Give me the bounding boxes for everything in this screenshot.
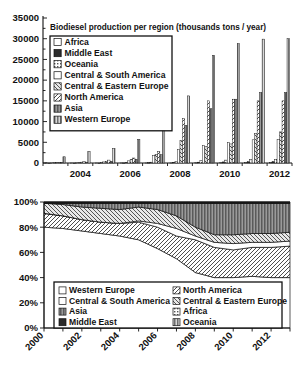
legend-label: North America	[183, 285, 242, 295]
legend-swatch	[54, 105, 61, 112]
bar	[262, 39, 264, 163]
bar	[83, 162, 85, 163]
bar	[260, 93, 262, 163]
bar	[110, 161, 112, 163]
area-x-tick-label: 2008	[174, 330, 197, 353]
bar	[175, 161, 177, 163]
bar	[250, 160, 252, 163]
bar	[158, 151, 160, 163]
legend-swatch	[59, 287, 66, 294]
area-x-tick-label: 2004	[98, 329, 121, 352]
bar	[138, 139, 140, 163]
legend-swatch	[54, 94, 61, 101]
bar	[185, 125, 187, 163]
bar	[160, 155, 162, 163]
bar	[282, 101, 284, 163]
legend-swatch	[54, 61, 61, 68]
legend-label: Middle East	[69, 317, 117, 327]
bar	[177, 149, 179, 163]
legend-swatch	[173, 308, 180, 315]
bar	[103, 162, 105, 163]
bar	[135, 159, 137, 163]
legend-swatch	[59, 308, 66, 315]
bar-y-tick-label: 10000	[13, 116, 39, 127]
legend-swatch	[54, 116, 61, 123]
bar	[58, 163, 60, 164]
bar	[232, 99, 234, 163]
legend-label: North America	[65, 92, 124, 102]
bar	[272, 162, 274, 163]
area-y-tick-label: 100%	[14, 196, 39, 207]
legend-swatch	[54, 38, 61, 45]
bar	[153, 156, 155, 163]
bar	[225, 160, 227, 163]
bar-y-tick-label: 5000	[18, 137, 39, 148]
bar-x-tick-label: 2004	[70, 168, 92, 179]
legend-label: Central & Eastern Europe	[65, 81, 169, 91]
legend-label: Central & South America	[69, 296, 170, 306]
legend-label: Oceania	[183, 317, 217, 327]
bar	[172, 163, 174, 164]
bar-x-tick-label: 2010	[219, 168, 240, 179]
legend-label: Central & South America	[65, 70, 166, 80]
bar	[202, 146, 204, 163]
area-y-tick-label: 60%	[19, 247, 39, 258]
area-x-tick-label: 2012	[250, 330, 273, 353]
bar-x-tick-label: 2012	[269, 168, 290, 179]
bar	[113, 149, 115, 164]
legend-label: Middle East	[65, 48, 113, 58]
bar	[80, 162, 82, 163]
legend-label: Asia	[69, 306, 87, 316]
bar	[247, 162, 249, 163]
bar	[63, 157, 65, 163]
bar	[235, 99, 237, 163]
legend-label: Oceania	[65, 59, 99, 69]
legend-swatch	[59, 319, 66, 326]
bar	[227, 142, 229, 163]
legend-label: Western Europe	[65, 114, 131, 124]
bar	[155, 154, 157, 163]
bar-x-tick-label: 2006	[120, 168, 141, 179]
legend-swatch	[54, 83, 61, 90]
area-x-tick-label: 2010	[212, 330, 235, 353]
biodiesel-share-area-chart: 0%20%40%60%80%100%2000200220042006200820…	[0, 188, 295, 369]
bar-y-tick-label: 30000	[13, 33, 39, 44]
legend-swatch	[54, 72, 61, 79]
bar	[88, 151, 90, 163]
bar	[197, 162, 199, 163]
legend-label: Africa	[65, 37, 90, 47]
bar	[130, 159, 132, 163]
legend-swatch	[173, 319, 180, 326]
bar-y-tick-label: 35000	[13, 12, 39, 23]
legend-swatch	[59, 298, 66, 305]
bar	[222, 162, 224, 163]
biodiesel-production-bar-chart: 0500010000150002000025000300003500020042…	[0, 0, 295, 188]
area-x-tick-label: 2006	[136, 330, 159, 353]
bar	[230, 144, 232, 163]
legend-label: Asia	[65, 103, 83, 113]
bar	[277, 139, 279, 163]
bar	[237, 44, 239, 163]
bar	[205, 147, 207, 163]
bar	[182, 119, 184, 163]
bar	[252, 140, 254, 163]
chart-page: 0500010000150002000025000300003500020042…	[0, 0, 295, 369]
legend-swatch	[54, 50, 61, 57]
bar	[133, 158, 135, 163]
bar	[207, 101, 209, 163]
bar	[210, 109, 212, 163]
bar	[287, 39, 289, 163]
area-y-tick-label: 20%	[19, 297, 39, 308]
bar	[180, 141, 182, 163]
area-y-tick-label: 80%	[19, 222, 39, 233]
legend-swatch	[173, 298, 180, 305]
legend-label: Africa	[183, 306, 208, 316]
bar	[200, 161, 202, 163]
legend-label: Western Europe	[69, 285, 135, 295]
bar	[105, 161, 107, 163]
bar	[78, 162, 80, 163]
bar-chart-title: Biodiesel production per region (thousan…	[50, 23, 266, 32]
bar	[150, 162, 152, 163]
bar	[285, 93, 287, 163]
bar-x-tick-label: 2008	[169, 168, 190, 179]
